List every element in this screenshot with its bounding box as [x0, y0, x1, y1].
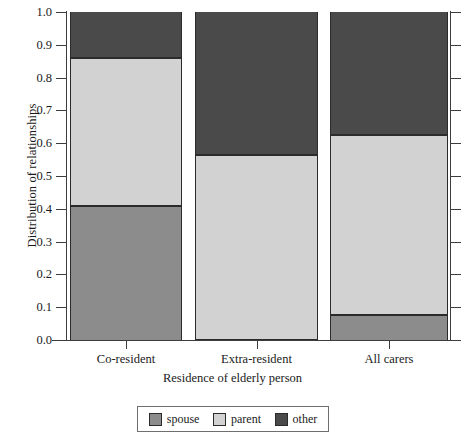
bar-segment-parent — [195, 155, 318, 340]
y-tick-mark — [56, 176, 66, 177]
legend: spouseparentother — [137, 406, 329, 432]
x-tick-label: Extra-resident — [187, 352, 327, 367]
y-tick-label: 0.8 — [12, 71, 52, 84]
y-tick-label: 0.1 — [12, 301, 52, 314]
bar-segment-spouse — [70, 206, 182, 340]
y-tick-label: 0.5 — [12, 170, 52, 183]
y-tick-mark-right — [451, 110, 461, 111]
y-tick-mark — [56, 307, 66, 308]
y-tick-mark — [56, 143, 66, 144]
bar-all-carers — [330, 12, 448, 340]
legend-label: parent — [231, 413, 261, 425]
y-tick-label: 0.7 — [12, 104, 52, 117]
y-tick-mark — [56, 78, 66, 79]
y-tick-label: 0.3 — [12, 235, 52, 248]
x-tick-mark — [257, 341, 258, 349]
legend-item-spouse: spouse — [149, 413, 200, 426]
legend-swatch-parent — [213, 413, 226, 426]
y-tick-label: 0.9 — [12, 39, 52, 52]
x-axis-line — [52, 340, 455, 341]
x-tick-mark — [389, 341, 390, 349]
y-tick-mark-right — [451, 274, 461, 275]
x-tick-label: All carers — [319, 352, 459, 367]
bar-segment-other — [70, 12, 182, 58]
legend-swatch-other — [275, 413, 288, 426]
y-tick-mark — [56, 45, 66, 46]
x-tick-mark — [126, 341, 127, 349]
bar-segment-other — [330, 12, 448, 135]
y-tick-label: 1.0 — [12, 6, 52, 19]
y-tick-mark-right — [451, 12, 461, 13]
legend-item-parent: parent — [213, 413, 261, 426]
y-tick-mark — [56, 110, 66, 111]
y-tick-label: 0.6 — [12, 137, 52, 150]
bar-segment-parent — [70, 58, 182, 206]
legend-swatch-spouse — [149, 413, 162, 426]
y-tick-mark — [56, 274, 66, 275]
x-tick-label: Co-resident — [56, 352, 196, 367]
y-tick-label: 0.0 — [12, 334, 52, 347]
bar-segment-parent — [330, 135, 448, 315]
legend-label: other — [293, 413, 318, 425]
plot-area — [66, 12, 450, 340]
y-tick-label: 0.2 — [12, 268, 52, 281]
bar-extra-resident — [195, 12, 318, 340]
bar-co-resident — [70, 12, 182, 340]
bar-segment-other — [195, 12, 318, 155]
bar-segment-spouse — [330, 315, 448, 340]
y-tick-mark-right — [451, 340, 461, 341]
y-tick-mark-right — [451, 307, 461, 308]
y-tick-label: 0.4 — [12, 203, 52, 216]
y-tick-mark-right — [451, 176, 461, 177]
y-tick-mark-right — [451, 242, 461, 243]
y-tick-mark-right — [451, 209, 461, 210]
legend-label: spouse — [167, 413, 200, 425]
y-tick-mark — [56, 209, 66, 210]
legend-item-other: other — [275, 413, 318, 426]
y-tick-mark — [56, 242, 66, 243]
x-axis-title: Residence of elderly person — [0, 371, 465, 386]
y-tick-mark — [56, 12, 66, 13]
y-tick-mark-right — [451, 45, 461, 46]
stacked-bar-chart-figure: Distribution of relationships 0.00.10.20… — [0, 0, 465, 443]
y-tick-mark — [56, 340, 66, 341]
y-tick-mark-right — [451, 78, 461, 79]
y-tick-mark-right — [451, 143, 461, 144]
